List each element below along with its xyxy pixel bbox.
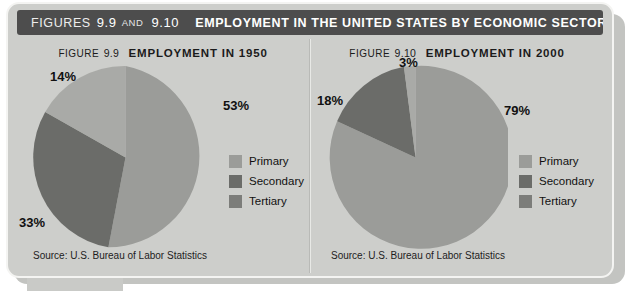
legend-swatch-tertiary-icon: [519, 195, 532, 208]
figure-root: FIGURES 9.9 AND 9.10 EMPLOYMENT IN THE U…: [0, 0, 625, 291]
pie-chart-1950: [33, 65, 218, 250]
callout-secondary-1950: 33%: [19, 215, 45, 230]
legend-item-primary: Primary: [519, 152, 594, 170]
panel-title-9-10: FIGURE 9.10 EMPLOYMENT IN 2000: [311, 43, 603, 61]
legend-label-secondary: Secondary: [249, 175, 304, 187]
legend-item-tertiary: Tertiary: [229, 192, 304, 210]
callout-primary-1950: 53%: [223, 98, 249, 113]
panel-title-9-9: FIGURE 9.9 EMPLOYMENT IN 1950: [17, 43, 309, 61]
legend-item-tertiary: Tertiary: [519, 192, 594, 210]
header-title: EMPLOYMENT IN THE UNITED STATES BY ECONO…: [179, 16, 603, 30]
pie-svg-1950: [33, 65, 218, 250]
legend-item-secondary: Secondary: [519, 172, 594, 190]
panel-figure-9-10: FIGURE 9.10 EMPLOYMENT IN 2000 7: [310, 39, 603, 273]
panels-container: FIGURE 9.9 EMPLOYMENT IN 1950 53: [17, 39, 603, 273]
callout-secondary-2000: 18%: [317, 93, 343, 108]
panel-figure-number: 9.9: [104, 47, 120, 59]
pie-chart-2000: [323, 65, 508, 250]
legend-swatch-secondary-icon: [519, 175, 532, 188]
legend-swatch-primary-icon: [519, 155, 532, 168]
callout-tertiary-1950: 14%: [50, 69, 76, 84]
callout-tertiary-2000: 3%: [399, 55, 418, 70]
header-and-word: AND: [117, 17, 146, 28]
header-figures-word: FIGURES: [17, 16, 91, 30]
legend-label-tertiary: Tertiary: [249, 195, 287, 207]
pie-svg-2000: [323, 65, 508, 250]
panel-label-word: FIGURE: [58, 48, 99, 59]
figure-card: FIGURES 9.9 AND 9.10 EMPLOYMENT IN THE U…: [6, 2, 614, 278]
legend-label-primary: Primary: [539, 155, 579, 167]
legend-label-primary: Primary: [249, 155, 289, 167]
header-figure-number-1: 9.9: [91, 15, 117, 30]
legend-swatch-primary-icon: [229, 155, 242, 168]
legend-label-tertiary: Tertiary: [539, 195, 577, 207]
callout-primary-2000: 79%: [504, 103, 530, 118]
bottom-tab-accent: [27, 276, 123, 291]
legend-label-secondary: Secondary: [539, 175, 594, 187]
legend-swatch-secondary-icon: [229, 175, 242, 188]
header-figure-number-2: 9.10: [146, 15, 180, 30]
source-note-2000: Source: U.S. Bureau of Labor Statistics: [331, 250, 505, 261]
legend-swatch-tertiary-icon: [229, 195, 242, 208]
panel-figure-9-9: FIGURE 9.9 EMPLOYMENT IN 1950 53: [17, 39, 310, 273]
legend-2000: Primary Secondary Tertiary: [519, 152, 594, 212]
legend-item-secondary: Secondary: [229, 172, 304, 190]
panel-label-word: FIGURE: [349, 48, 390, 59]
source-note-1950: Source: U.S. Bureau of Labor Statistics: [33, 250, 207, 261]
panel-heading: EMPLOYMENT IN 1950: [124, 47, 268, 59]
legend-1950: Primary Secondary Tertiary: [229, 152, 304, 212]
figure-header-bar: FIGURES 9.9 AND 9.10 EMPLOYMENT IN THE U…: [17, 10, 603, 35]
legend-item-primary: Primary: [229, 152, 304, 170]
panel-heading: EMPLOYMENT IN 2000: [421, 47, 565, 59]
